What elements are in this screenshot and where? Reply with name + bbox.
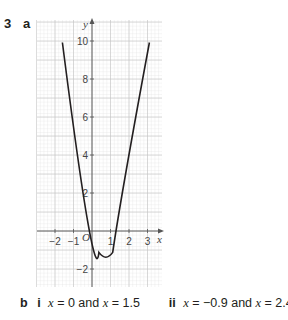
x-tick-neg2: −2 — [49, 236, 61, 247]
y-tick-8: 8 — [82, 74, 88, 85]
origin-label: O — [82, 231, 90, 243]
part-b-label: b — [20, 296, 28, 310]
y-tick-neg2: −2 — [77, 264, 89, 275]
y-tick-4: 4 — [82, 150, 88, 161]
answer-i-text-2: = 1.5 — [108, 296, 140, 310]
y-tick-10: 10 — [77, 36, 89, 47]
x-axis-label: x — [156, 233, 162, 245]
answer-ii-label: ii — [169, 296, 176, 310]
answer-i-label: i — [37, 296, 40, 310]
answer-ii-text-2: = 2.4 — [261, 296, 288, 310]
graph: 10 8 6 4 2 −2 −2 −1 1 2 3 O y x — [0, 0, 288, 295]
part-b-answers: b i x = 0 and x = 1.5 ii x = −0.9 and x … — [20, 296, 288, 311]
answer-ii-text-1: = −0.9 and — [189, 296, 256, 310]
x-tick-1: 1 — [108, 236, 114, 247]
x-tick-2: 2 — [126, 236, 132, 247]
y-axis-label: y — [82, 18, 88, 30]
answer-i-text-1: = 0 and — [54, 296, 103, 310]
x-tick-3: 3 — [145, 236, 151, 247]
x-tick-neg1: −1 — [68, 236, 80, 247]
y-tick-6: 6 — [82, 112, 88, 123]
